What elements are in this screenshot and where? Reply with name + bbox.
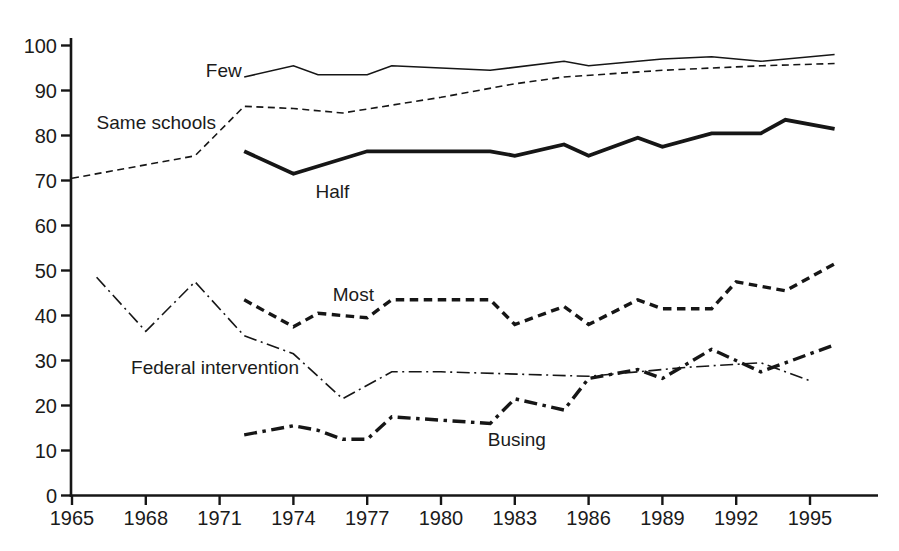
series-label-most: Most [333,284,375,305]
y-tick-label: 100 [24,35,57,57]
y-tick-label: 10 [35,440,57,462]
y-tick-label: 0 [46,485,57,507]
series-line-busing [244,345,834,440]
series-line-few [244,55,834,78]
figure-canvas: 0102030405060708090100196519681971197419… [0,0,899,551]
series-label-half: Half [316,181,351,202]
series-line-federal-intervention [97,277,810,399]
x-tick-label: 1971 [197,507,242,529]
y-tick-label: 20 [35,395,57,417]
y-tick-label: 60 [35,215,57,237]
series-label-few: Few [206,60,242,81]
x-tick-label: 1995 [788,507,833,529]
series-line-half [244,120,834,174]
x-tick-label: 1986 [566,507,611,529]
x-tick-label: 1974 [271,507,316,529]
series-label-federal-intervention: Federal intervention [131,357,299,378]
series-label-busing: Busing [488,429,546,450]
y-tick-label: 50 [35,260,57,282]
x-tick-label: 1968 [124,507,169,529]
y-tick-label: 80 [35,125,57,147]
x-tick-label: 1992 [714,507,759,529]
x-tick-label: 1965 [50,507,95,529]
y-tick-label: 40 [35,305,57,327]
y-tick-label: 30 [35,350,57,372]
line-chart: 0102030405060708090100196519681971197419… [0,0,899,551]
y-tick-label: 90 [35,80,57,102]
x-tick-label: 1977 [345,507,390,529]
series-label-same-schools: Same schools [97,112,216,133]
x-tick-label: 1980 [419,507,464,529]
x-tick-label: 1989 [640,507,685,529]
x-tick-label: 1983 [493,507,538,529]
y-tick-label: 70 [35,170,57,192]
